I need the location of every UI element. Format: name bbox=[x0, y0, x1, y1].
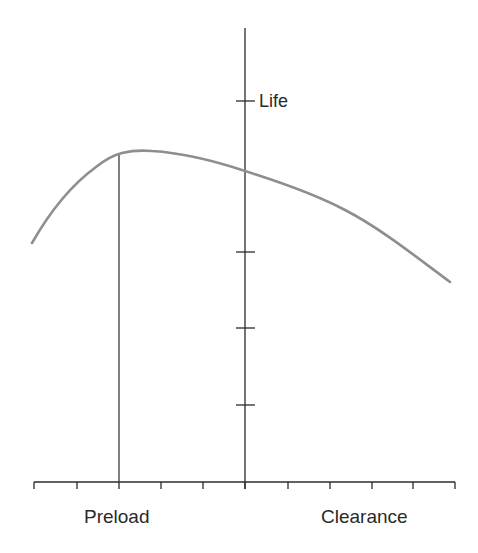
life-vs-clearance-diagram bbox=[0, 0, 478, 553]
life-curve bbox=[32, 151, 450, 282]
x-axis-label-clearance: Clearance bbox=[321, 507, 408, 526]
x-axis-label-preload: Preload bbox=[84, 507, 150, 526]
y-axis-label-life: Life bbox=[259, 92, 288, 110]
